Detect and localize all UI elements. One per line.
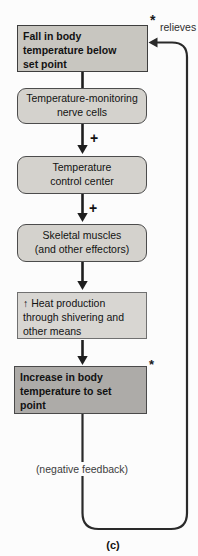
flow-arrow-control-effector: [77, 194, 87, 222]
box-stimulus: Fall in body temperature below set point: [17, 25, 148, 72]
box-response: ↑ Heat production through shivering and …: [17, 292, 147, 339]
relieves-label: relieves: [160, 21, 196, 33]
asterisk-stimulus: *: [150, 12, 155, 28]
figure-caption: (c): [95, 539, 131, 551]
plus-sign-stimulatory-1: +: [90, 130, 98, 146]
feedback-loop-diagram: Fall in body temperature below set point…: [0, 0, 198, 556]
flow-arrow-response-result: [77, 340, 87, 365]
negative-feedback-label: (negative feedback): [27, 462, 137, 476]
box-control-center: Temperature control center: [17, 156, 147, 194]
box-effector: Skeletal muscles (and other effectors): [17, 224, 147, 262]
flow-arrow-effector-response: [77, 262, 87, 290]
box-receptor: Temperature-monitoring nerve cells: [17, 88, 147, 124]
flow-arrow-receptor-control: [77, 124, 87, 154]
plus-sign-stimulatory-2: +: [89, 200, 97, 216]
box-result: Increase in body temperature to set poin…: [14, 366, 147, 414]
asterisk-result: *: [149, 357, 154, 372]
